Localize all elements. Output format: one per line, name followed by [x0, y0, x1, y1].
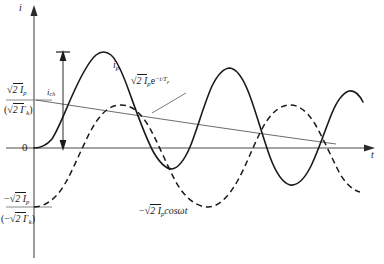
dashed-curve-label: −√2 Ipcosωt	[139, 206, 187, 217]
negative-peak-base: 2 I	[15, 192, 26, 204]
solid-curve-subscript: p	[116, 64, 119, 71]
envelope-exponent-subscript: p	[167, 79, 169, 84]
dc-offset-subscript: ch	[50, 91, 56, 97]
waveform-figure	[0, 0, 384, 264]
origin-label: 0	[22, 142, 28, 153]
radical-sign: √	[7, 84, 13, 95]
negative-peak-alt-label: (−√2 I″k)	[1, 214, 35, 225]
radical-sign: √	[131, 75, 137, 86]
positive-peak-alt-base: 2 I	[13, 103, 24, 115]
positive-peak-base: 2 I	[13, 83, 24, 95]
solid-curve-label: ip	[113, 60, 119, 71]
paren-close: )	[29, 104, 32, 115]
negative-peak-label: −√2 Ip	[4, 194, 29, 205]
positive-peak-subscript: p	[23, 89, 26, 96]
envelope-label: √2 Ipe−t/Tp	[131, 76, 169, 87]
dashed-curve-base: 2 I	[150, 204, 161, 216]
solid-total-current-curve	[34, 52, 363, 185]
dashed-cosine-curve	[34, 105, 360, 207]
positive-peak-label: √2 Ip	[7, 85, 27, 96]
envelope-base: 2 I	[137, 74, 148, 86]
dc-offset-label: ich	[47, 88, 55, 98]
decay-envelope-curve	[36, 100, 336, 144]
dashed-curve-trig: cosωt	[164, 205, 187, 216]
positive-peak-alt-label: (√2 I″k)	[4, 105, 32, 116]
negative-peak-alt-base: 2 I	[15, 212, 26, 224]
envelope-exponent: −t/T	[155, 75, 167, 82]
y-axis-label: i	[19, 3, 22, 13]
negative-peak-subscript: p	[26, 198, 29, 205]
paren-close: )	[32, 213, 35, 224]
x-axis-label: t	[371, 150, 374, 160]
envelope-leader-line	[152, 93, 186, 113]
dc-offset-arrow	[56, 50, 70, 151]
